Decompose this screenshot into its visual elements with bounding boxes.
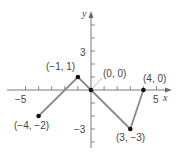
graph-figure: x y −5 5 3 −3 (−4, −2) (−1, 1) (0, 0) (3…: [0, 0, 176, 156]
y-tick-label-neg3: −3: [74, 124, 86, 135]
point-4-0: [141, 88, 146, 93]
point-neg4-neg2: [36, 114, 41, 119]
point-label-4-0: (4, 0): [143, 73, 166, 84]
y-axis-label: y: [81, 8, 87, 19]
origin-leader-line: [93, 78, 102, 88]
x-tick-label-neg5: −5: [15, 94, 27, 105]
point-label-neg1-1: (−1, 1): [46, 61, 75, 72]
point-label-neg4-neg2: (−4, −2): [14, 120, 49, 131]
x-axis-label: x: [162, 92, 168, 103]
x-tick-label-5: 5: [153, 94, 159, 105]
point-label-origin: (0, 0): [103, 68, 126, 79]
point-origin: [89, 88, 94, 93]
point-neg1-1: [76, 75, 81, 80]
y-axis: [89, 11, 96, 148]
y-tick-label-3: 3: [80, 47, 86, 58]
point-3-neg3: [128, 127, 133, 132]
y-axis-arrow-icon: [89, 11, 94, 18]
point-label-3-neg3: (3, −3): [116, 132, 145, 143]
